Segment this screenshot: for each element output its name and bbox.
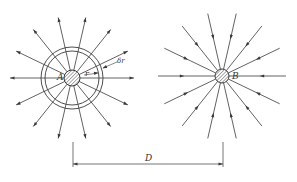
field-line: [74, 18, 86, 71]
field-line: [16, 81, 65, 104]
arrowhead-icon: [16, 102, 21, 105]
label-d: D: [145, 154, 152, 163]
field-line: [16, 51, 65, 74]
arrowhead-icon: [256, 56, 261, 59]
arrowhead-icon: [123, 51, 128, 54]
arrowhead-icon: [10, 76, 15, 79]
arrowhead-icon: [180, 74, 185, 77]
charge-b-group: [158, 14, 286, 139]
field-line: [79, 81, 128, 104]
field-line: [228, 48, 279, 73]
arrowhead-icon: [130, 76, 135, 79]
arrowhead-icon: [260, 74, 265, 77]
field-line: [228, 79, 279, 104]
field-line: [77, 84, 111, 126]
arrowhead-icon: [94, 72, 99, 75]
label-b: B: [232, 72, 239, 81]
arrowhead-icon: [103, 65, 108, 68]
label-r: r: [85, 70, 89, 78]
field-line: [33, 84, 67, 126]
charge-a-group: [10, 18, 134, 139]
label-a: A: [57, 73, 64, 82]
diagram-canvas: A r δr B D: [0, 0, 297, 182]
field-line: [74, 86, 86, 139]
field-line: [164, 48, 215, 73]
charge-a-core: [64, 70, 80, 86]
arrowhead-icon: [123, 102, 128, 105]
arrowhead-icon: [16, 51, 21, 54]
label-delta-r: δr: [117, 58, 125, 65]
field-line: [77, 30, 111, 72]
charge-b-core: [215, 69, 229, 83]
arrowhead-icon: [256, 92, 261, 95]
field-line: [164, 79, 215, 104]
field-line: [58, 86, 70, 139]
arrowhead-icon: [219, 162, 224, 165]
arrowhead-icon: [73, 162, 78, 165]
arrowhead-icon: [183, 92, 188, 95]
field-line: [58, 18, 70, 71]
field-line: [33, 30, 67, 72]
arrowhead-icon: [183, 56, 188, 59]
